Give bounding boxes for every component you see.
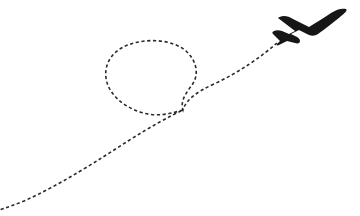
illustration-canvas bbox=[0, 0, 360, 216]
airplane-trail-svg bbox=[0, 0, 360, 216]
